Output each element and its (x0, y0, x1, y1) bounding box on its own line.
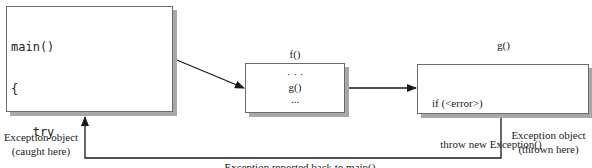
caught-here-label: Exception object (caught here) (0, 130, 82, 158)
thrown-line-2: (thrown here) (505, 142, 592, 156)
code-line: { (11, 82, 172, 96)
f-line: · · · (246, 68, 344, 81)
thrown-line-1: Exception object (505, 128, 592, 142)
call-arrow-main-to-f (172, 58, 244, 88)
f-function-box: · · · g() ... (245, 63, 345, 113)
f-box-title: f() (245, 48, 345, 60)
g-function-box: if (<error>) throw new Exception() . . . (417, 64, 589, 114)
reported-back-label: Exception reported back to main() (180, 161, 420, 168)
main-function-box: main() { try { f(); } catch (Exception e… (6, 6, 173, 112)
caught-line-1: Exception object (0, 130, 82, 144)
code-line: main() (11, 40, 172, 54)
thrown-here-label: Exception object (thrown here) (505, 128, 592, 156)
g-box-title: g() (417, 39, 590, 51)
caught-line-2: (caught here) (0, 144, 82, 158)
g-line: if (<error>) (432, 97, 588, 111)
f-line: ... (246, 93, 344, 106)
